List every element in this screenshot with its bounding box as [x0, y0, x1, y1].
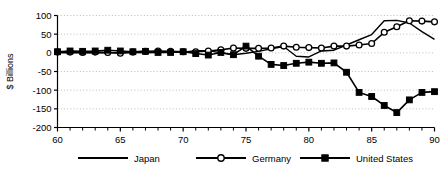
data-point-marker	[369, 94, 375, 100]
data-point-marker	[281, 43, 287, 49]
y-tick-label: -150	[32, 103, 51, 114]
data-point-marker	[344, 43, 350, 49]
data-point-marker	[231, 45, 237, 51]
data-point-marker	[155, 50, 161, 56]
data-point-marker	[193, 51, 199, 57]
y-tick-label: -100	[32, 85, 51, 96]
x-tick-label: 70	[178, 134, 189, 145]
y-tick-label: 100	[36, 10, 52, 21]
x-tick-label: 60	[52, 134, 63, 145]
y-tick-label: 50	[41, 29, 52, 40]
data-point-marker	[381, 29, 387, 35]
data-point-marker	[117, 48, 123, 54]
legend-label: Japan	[134, 153, 160, 164]
data-point-marker	[319, 45, 325, 51]
data-point-marker	[356, 42, 362, 48]
x-tick-label: 65	[115, 134, 126, 145]
data-point-marker	[432, 89, 438, 95]
data-point-marker	[218, 50, 224, 56]
data-point-marker	[306, 45, 312, 51]
data-point-marker	[293, 60, 299, 66]
data-point-marker	[256, 53, 262, 59]
data-point-marker	[356, 90, 362, 96]
legend-label: Germany	[252, 153, 291, 164]
data-point-marker	[130, 49, 136, 55]
data-point-marker	[168, 50, 174, 56]
line-chart: 100500-50-100-150-20060657075808590$ Bil…	[0, 0, 444, 173]
data-point-marker	[92, 48, 98, 54]
data-point-marker	[344, 69, 350, 75]
data-point-marker	[55, 49, 61, 55]
data-point-marker	[406, 97, 412, 103]
x-tick-label: 90	[429, 134, 440, 145]
data-point-marker	[231, 52, 237, 58]
chart-background	[0, 0, 444, 173]
data-point-marker	[432, 19, 438, 25]
y-tick-label: 0	[46, 47, 51, 58]
data-point-marker	[105, 47, 111, 53]
data-point-marker	[205, 52, 211, 58]
data-point-marker	[331, 60, 337, 66]
legend-marker-square	[322, 155, 328, 161]
data-point-marker	[293, 44, 299, 50]
data-point-marker	[319, 60, 325, 66]
data-point-marker	[331, 43, 337, 49]
data-point-marker	[419, 90, 425, 96]
legend-label: United States	[356, 153, 413, 164]
data-point-marker	[268, 45, 274, 51]
legend-marker-circle	[218, 155, 224, 161]
data-point-marker	[381, 103, 387, 109]
data-point-marker	[143, 48, 149, 54]
y-axis-title: $ Billions	[5, 53, 15, 90]
chart-figure: 100500-50-100-150-20060657075808590$ Bil…	[0, 0, 444, 173]
data-point-marker	[256, 45, 262, 51]
y-tick-label: -50	[38, 66, 52, 77]
y-tick-label: -200	[32, 122, 51, 133]
data-point-marker	[243, 43, 249, 49]
data-point-marker	[268, 62, 274, 68]
data-point-marker	[369, 41, 375, 47]
x-tick-label: 80	[304, 134, 315, 145]
data-point-marker	[306, 59, 312, 65]
data-point-marker	[67, 48, 73, 54]
data-point-marker	[394, 110, 400, 116]
data-point-marker	[406, 18, 412, 24]
x-tick-label: 75	[241, 134, 252, 145]
data-point-marker	[394, 24, 400, 30]
data-point-marker	[80, 48, 86, 54]
x-tick-label: 85	[366, 134, 377, 145]
data-point-marker	[281, 63, 287, 69]
data-point-marker	[419, 18, 425, 24]
data-point-marker	[180, 49, 186, 55]
